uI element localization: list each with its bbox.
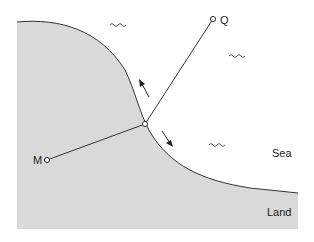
point-m: [44, 157, 49, 162]
wave-icon: [209, 144, 225, 147]
wave-icon: [110, 24, 126, 27]
label-land: Land: [267, 206, 291, 218]
point-q: [210, 16, 215, 21]
coastline-diagram: Q M Sea Land: [0, 0, 314, 242]
label-m: M: [33, 154, 42, 166]
line-p-q: [145, 19, 213, 124]
point-p: [142, 121, 147, 126]
arrow-up-left-icon: [139, 79, 149, 97]
label-sea: Sea: [272, 147, 292, 159]
land-region: [17, 21, 298, 229]
wave-icon: [229, 55, 245, 58]
arrow-down-right-icon: [162, 131, 173, 147]
label-q: Q: [220, 14, 229, 26]
